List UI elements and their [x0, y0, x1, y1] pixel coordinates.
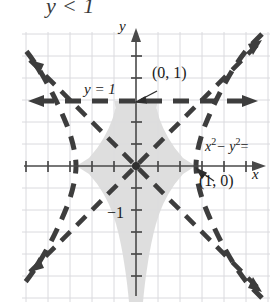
label-line-y-equals-1: y = 1 — [84, 81, 116, 98]
y-tick-label-negative-1: −1 — [107, 204, 124, 222]
origin-marker — [132, 162, 140, 170]
hyperbola-term-y: − y — [216, 139, 235, 154]
label-point-1-0: (1, 0) — [199, 172, 234, 190]
x-axis-label: x — [252, 166, 259, 183]
figure-graph-region: y < 1 — [0, 0, 272, 308]
label-point-0-1: (0, 1) — [152, 64, 187, 82]
y-axis-label: y — [119, 18, 126, 35]
label-hyperbola-equation: x2− y2= — [205, 136, 248, 155]
hyperbola-equals: = — [240, 139, 248, 154]
